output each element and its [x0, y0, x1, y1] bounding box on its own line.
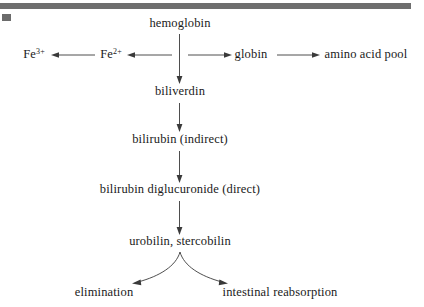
arrowhead-left-fe2	[127, 52, 135, 58]
arrowhead-left-elimination	[132, 280, 141, 286]
node-urobilin-stercobilin: urobilin, stercobilin	[129, 234, 231, 248]
node-amino-acid-pool: amino acid pool	[325, 47, 408, 61]
node-fe2-superscript: 2+	[113, 47, 122, 56]
node-hemoglobin: hemoglobin	[149, 16, 211, 30]
edge-urobilin-to-elimination	[138, 252, 180, 282]
node-bilirubin-diglucuronide-direct: bilirubin diglucuronide (direct)	[100, 182, 260, 196]
arrowhead-right-globin	[224, 52, 232, 58]
diagram-page: hemoglobin Fe3+ Fe2+ globin amino acid p…	[0, 0, 424, 307]
arrowhead-left-fe3	[51, 52, 59, 58]
arrowhead-right-amino-acid-pool	[312, 52, 320, 58]
node-globin: globin	[235, 47, 268, 61]
node-fe3-symbol: Fe	[23, 47, 36, 61]
node-intestinal-reabsorption: intestinal reabsorption	[223, 285, 338, 299]
node-biliverdin: biliverdin	[155, 84, 206, 98]
arrowhead-down-bilirubin-indirect	[177, 124, 183, 132]
node-fe3-plus: Fe3+	[23, 47, 45, 62]
pathway-diagram: hemoglobin Fe3+ Fe2+ globin amino acid p…	[0, 0, 424, 307]
edge-urobilin-to-intestinal-reabsorption	[180, 252, 222, 282]
arrowhead-down-biliverdin	[177, 76, 183, 84]
node-fe3-superscript: 3+	[36, 47, 45, 56]
node-fe2-plus: Fe2+	[100, 47, 122, 62]
node-elimination: elimination	[75, 285, 134, 299]
node-bilirubin-indirect: bilirubin (indirect)	[132, 132, 228, 146]
node-fe2-symbol: Fe	[100, 47, 113, 61]
